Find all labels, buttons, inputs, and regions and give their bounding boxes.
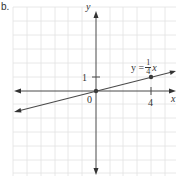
origin-point (94, 89, 98, 93)
equation-fraction: 1 4 (145, 59, 151, 76)
origin-label: 0 (87, 95, 92, 105)
fraction-denominator: 4 (146, 68, 150, 76)
equation-lhs: y = (131, 63, 144, 73)
y-axis-label: y (86, 2, 90, 12)
equation-label: y = 1 4 x (131, 59, 157, 76)
x-axis-label: x (171, 94, 175, 104)
part-label: b. (1, 2, 9, 12)
equation-variable: x (152, 63, 156, 73)
x-tick-label: 4 (148, 98, 153, 108)
graph-svg (0, 0, 176, 176)
y-tick-label: 1 (82, 73, 87, 83)
coordinate-plane: b. y x 1 0 4 y = 1 4 x (0, 0, 176, 176)
